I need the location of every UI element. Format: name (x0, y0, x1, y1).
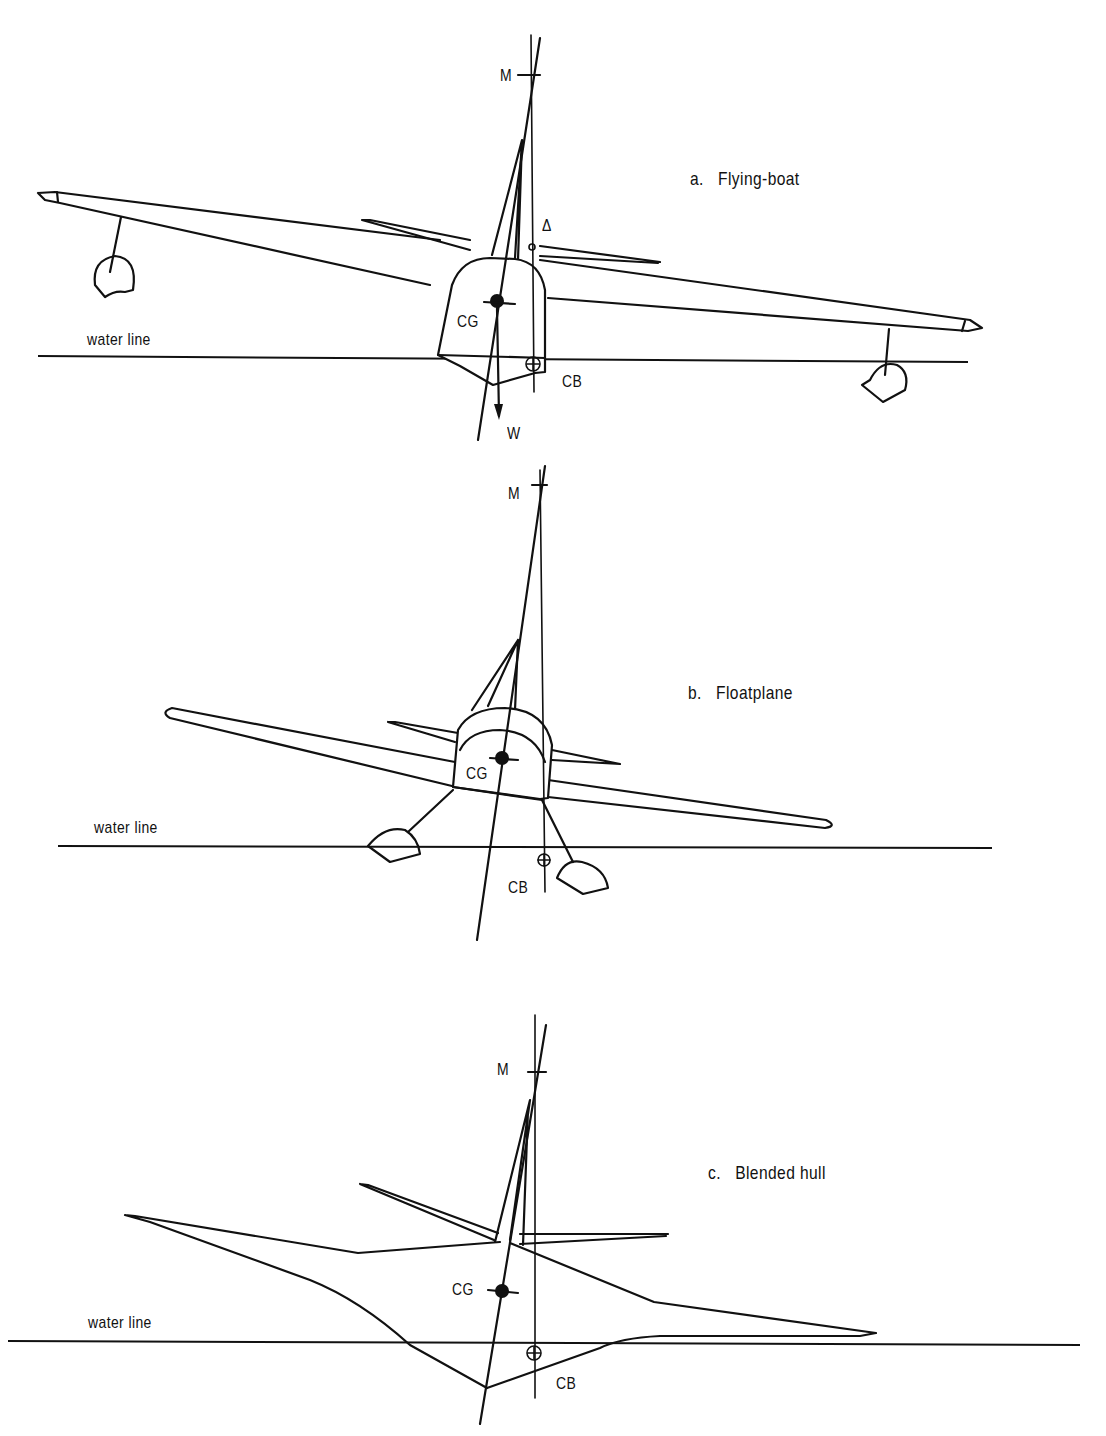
right-float-strut (542, 800, 573, 862)
water-line (8, 1341, 1080, 1345)
right-float-strut (885, 329, 889, 375)
panel-b-floatplane (58, 466, 992, 940)
panel-a-caption: a. Flying-boat (690, 168, 800, 190)
left-float (368, 829, 420, 862)
hull (438, 258, 545, 385)
panel-b-cg-label: CG (466, 764, 488, 784)
water-line (58, 846, 992, 848)
weight-arrowhead-icon (494, 404, 503, 420)
tailplane-left (388, 722, 458, 742)
panel-c-blended-hull (8, 1015, 1080, 1424)
panel-b-caption: b. Floatplane (688, 682, 793, 704)
right-float (862, 364, 906, 402)
left-wing (38, 192, 440, 285)
panel-a-water-line-label: water line (87, 330, 151, 350)
panel-a-cg-label: CG (457, 312, 479, 332)
left-float-strut (408, 790, 453, 832)
cb-symbol-icon (538, 854, 550, 866)
tail-fin (492, 140, 522, 260)
panel-b-cb-label: CB (508, 878, 528, 898)
symmetry-axis (477, 466, 545, 940)
cg-symbol-icon (488, 1284, 518, 1298)
panel-a-weight-label: W (507, 424, 521, 444)
tailplane-left (362, 220, 470, 250)
tailplane-right (552, 750, 620, 764)
panel-a-delta-label: Δ (542, 216, 552, 236)
diagram-drawing (0, 0, 1106, 1436)
right-float (557, 861, 608, 894)
panel-b-water-line-label: water line (94, 818, 158, 838)
left-wing (165, 708, 455, 786)
cb-symbol-icon (527, 1346, 541, 1360)
panel-c-metacenter-label: M (497, 1060, 509, 1080)
cb-vertical-line (540, 470, 545, 892)
stability-diagram-figure: M a. Flying-boat Δ CG water line CB W M … (0, 0, 1106, 1436)
right-wing-body (487, 1243, 876, 1388)
panel-a-flying-boat (38, 35, 982, 440)
panel-b-metacenter-label: M (508, 484, 520, 504)
left-float (95, 256, 134, 297)
symmetry-axis (480, 1025, 546, 1424)
cb-symbol-icon (526, 357, 540, 371)
left-float-strut (110, 217, 121, 272)
right-wing (540, 260, 982, 331)
right-wing-tip (962, 321, 965, 331)
panel-c-cb-label: CB (556, 1374, 576, 1394)
panel-c-water-line-label: water line (88, 1313, 152, 1333)
panel-a-metacenter-label: M (500, 66, 512, 86)
tailplane-right (540, 246, 660, 263)
panel-c-cg-label: CG (452, 1280, 474, 1300)
left-wing-tip (57, 192, 58, 202)
right-wing (548, 780, 832, 828)
left-wing-body (125, 1215, 500, 1388)
panel-c-caption: c. Blended hull (708, 1162, 826, 1184)
tailplane-right (520, 1234, 668, 1244)
panel-a-cb-label: CB (562, 372, 582, 392)
tailplane-left (360, 1184, 498, 1240)
